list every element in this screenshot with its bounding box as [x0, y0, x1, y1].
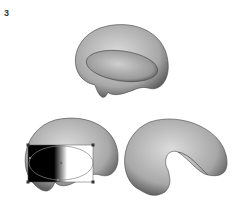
shape-bottom-right: [125, 119, 227, 195]
handle-left-mid[interactable]: [29, 157, 31, 159]
handle-top-left[interactable]: [27, 144, 30, 147]
shape-bottom-left: [25, 118, 118, 191]
handle-center[interactable]: [60, 162, 63, 165]
shape-top: [75, 25, 168, 98]
handle-bottom-left[interactable]: [27, 181, 30, 184]
illustration-canvas: [0, 0, 239, 209]
handle-bottom-right[interactable]: [92, 181, 95, 184]
handle-top-right[interactable]: [92, 144, 95, 147]
handle-bottom-mid[interactable]: [57, 179, 59, 181]
